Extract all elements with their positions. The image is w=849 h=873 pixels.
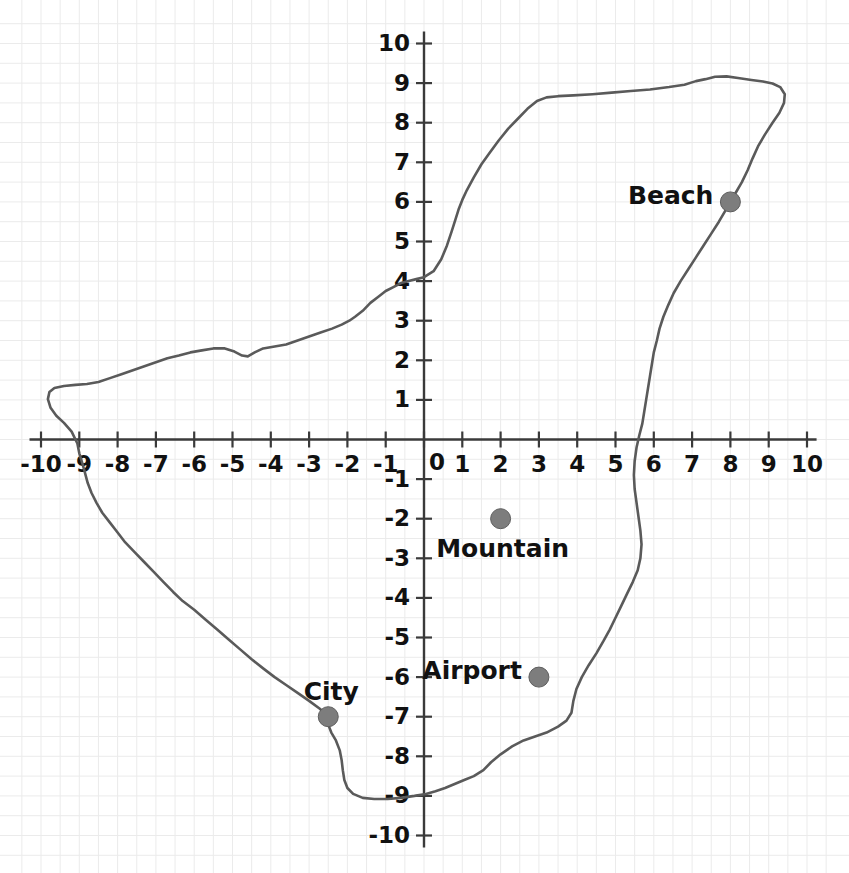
- poi-label: Airport: [422, 656, 522, 685]
- x-tick-label: 0: [429, 449, 445, 475]
- poi-airport[interactable]: Airport: [422, 656, 549, 687]
- y-tick-label: -6: [384, 664, 410, 690]
- y-tick-label: -2: [384, 505, 410, 531]
- x-tick-label: 3: [531, 451, 547, 477]
- poi-marker-icon[interactable]: [491, 509, 511, 529]
- y-tick-label: -10: [368, 822, 410, 848]
- x-tick-label: -6: [181, 451, 207, 477]
- poi-beach[interactable]: Beach: [628, 181, 741, 212]
- y-tick-label: 9: [394, 70, 410, 96]
- x-tick-label: 4: [569, 451, 585, 477]
- x-tick-label: 5: [607, 451, 623, 477]
- x-tick-label: 10: [791, 451, 823, 477]
- y-tick-label: -1: [384, 466, 410, 492]
- x-tick-label: 9: [761, 451, 777, 477]
- x-tick-label: 1: [454, 451, 470, 477]
- poi-marker-icon[interactable]: [529, 667, 549, 687]
- poi-label: Beach: [628, 181, 714, 210]
- y-tick-label: -3: [384, 545, 410, 571]
- y-tick-label: 3: [394, 307, 410, 333]
- poi-label: City: [304, 677, 359, 706]
- x-tick-label: 7: [684, 451, 700, 477]
- x-tick-label: 8: [722, 451, 738, 477]
- x-tick-label: -4: [258, 451, 284, 477]
- y-tick-label: 7: [394, 149, 410, 175]
- x-tick-label: -3: [296, 451, 322, 477]
- x-tick-label: 2: [493, 451, 509, 477]
- poi-marker-icon[interactable]: [720, 192, 740, 212]
- x-tick-label: 6: [646, 451, 662, 477]
- y-tick-label: -9: [384, 782, 410, 808]
- x-tick-label: -2: [335, 451, 361, 477]
- x-tick-label: -8: [105, 451, 131, 477]
- y-tick-label: -5: [384, 624, 410, 650]
- y-tick-label: 8: [394, 109, 410, 135]
- poi-mountain[interactable]: Mountain: [436, 509, 569, 563]
- x-tick-label: -5: [220, 451, 246, 477]
- x-tick-label: -10: [20, 451, 62, 477]
- y-tick-label: 10: [378, 30, 410, 56]
- points-of-interest: BeachMountainAirportCity: [304, 181, 741, 727]
- map-plot: -10-9-8-7-6-5-4-3-2-1012345678910-10-9-8…: [0, 0, 849, 873]
- y-tick-label: -7: [384, 703, 410, 729]
- poi-city[interactable]: City: [304, 677, 359, 727]
- y-tick-label: 5: [394, 228, 410, 254]
- chart-canvas: -10-9-8-7-6-5-4-3-2-1012345678910-10-9-8…: [0, 0, 849, 873]
- y-tick-label: 2: [394, 347, 410, 373]
- y-tick-label: -4: [384, 584, 410, 610]
- poi-marker-icon[interactable]: [318, 707, 338, 727]
- poi-label: Mountain: [436, 534, 569, 563]
- y-tick-label: -8: [384, 743, 410, 769]
- y-tick-label: 6: [394, 188, 410, 214]
- x-tick-label: -7: [143, 451, 169, 477]
- y-tick-label: 1: [394, 386, 410, 412]
